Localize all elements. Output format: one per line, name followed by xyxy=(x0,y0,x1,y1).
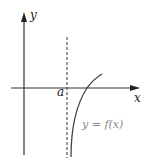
function-graph: y x a y = f(x) xyxy=(0,0,148,166)
function-curve xyxy=(71,74,102,157)
asymptote-label: a xyxy=(57,85,64,99)
x-axis-label: x xyxy=(134,91,141,105)
curve-label: y = f(x) xyxy=(81,118,123,131)
y-axis-arrow-icon xyxy=(21,12,27,22)
y-axis-label: y xyxy=(29,8,37,22)
